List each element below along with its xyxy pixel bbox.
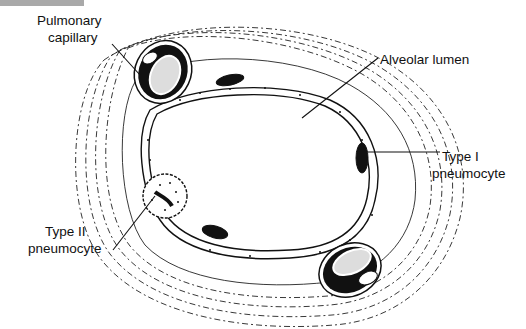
type2-pneumocyte bbox=[143, 174, 187, 218]
alveolar-wall bbox=[141, 87, 378, 259]
type1-pneumocyte-nucleus bbox=[356, 143, 368, 173]
label-type1-1: Type I bbox=[442, 149, 479, 164]
leader-line-lumen bbox=[302, 58, 378, 118]
label-alveolar-lumen: Alveolar lumen bbox=[380, 52, 469, 67]
alveolus-diagram: Pulmonary capillary Alveolar lumen Type … bbox=[0, 0, 526, 329]
pulmonary-capillary-bottom bbox=[310, 233, 390, 307]
label-type2-2: pneumocyte bbox=[28, 241, 102, 256]
leader-line-capillary bbox=[112, 44, 140, 75]
label-type1-2: pneumocyte bbox=[432, 166, 506, 181]
leader-line-type2 bbox=[113, 196, 155, 250]
label-pulmonary-capillary-1: Pulmonary bbox=[37, 13, 102, 28]
label-pulmonary-capillary-2: capillary bbox=[48, 30, 98, 45]
label-type2-1: Type II bbox=[45, 224, 86, 239]
